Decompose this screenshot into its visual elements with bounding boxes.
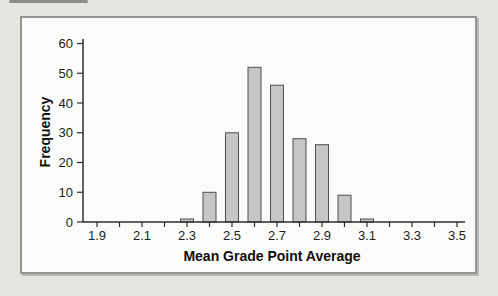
x-tick-label-2.3: 2.3: [178, 228, 196, 243]
x-tick-label-3.5: 3.5: [448, 228, 466, 243]
histogram-bar-2.9: [316, 145, 329, 222]
x-tick-label-2.7: 2.7: [268, 228, 286, 243]
x-tick-label-3.3: 3.3: [403, 228, 421, 243]
histogram-bar-2.6: [248, 67, 261, 222]
y-tick-label-50: 50: [59, 66, 73, 81]
histogram-chart: 1.92.12.32.52.72.93.13.33.50102030405060…: [22, 18, 475, 272]
y-axis-title: Frequency: [37, 96, 53, 167]
x-tick-label-2.9: 2.9: [313, 228, 331, 243]
y-tick-label-20: 20: [59, 155, 73, 170]
y-tick-label-30: 30: [59, 125, 73, 140]
page-top-rule-fragment: [9, 0, 88, 3]
chart-plot-area: 1.92.12.32.52.72.93.13.33.50102030405060: [59, 36, 467, 243]
x-axis-title: Mean Grade Point Average: [183, 248, 360, 264]
chart-frame: 1.92.12.32.52.72.93.13.33.50102030405060…: [20, 16, 477, 274]
histogram-bar-2.7: [271, 85, 284, 222]
x-tick-label-1.9: 1.9: [88, 228, 106, 243]
y-tick-label-60: 60: [59, 36, 73, 51]
histogram-bar-2.5: [226, 133, 239, 222]
page-background: 1.92.12.32.52.72.93.13.33.50102030405060…: [0, 0, 498, 296]
y-tick-label-40: 40: [59, 96, 73, 111]
histogram-bar-2.4: [203, 192, 216, 222]
histogram-bar-3: [338, 195, 351, 222]
x-tick-label-2.1: 2.1: [133, 228, 151, 243]
x-tick-label-3.1: 3.1: [358, 228, 376, 243]
y-tick-label-0: 0: [66, 215, 73, 230]
histogram-bar-2.8: [293, 139, 306, 222]
x-tick-label-2.5: 2.5: [223, 228, 241, 243]
y-tick-label-10: 10: [59, 185, 73, 200]
